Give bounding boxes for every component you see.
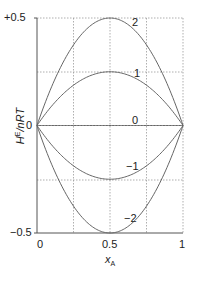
y-tick-label-bottom: −0.5 (10, 227, 32, 238)
curves (37, 18, 183, 233)
y-axis-label-sup: E (14, 132, 21, 137)
y-axis-label-main: H (14, 136, 26, 144)
curve-label-minus-2: −2 (124, 213, 137, 224)
curve-label-1: 1 (134, 68, 140, 79)
x-axis-label: xA (105, 253, 115, 267)
curve-label-minus-1: −1 (126, 161, 139, 172)
x-axis-label-sub: A (111, 260, 116, 267)
y-axis-label: HE/nRT (14, 108, 27, 144)
x-tick-label-0.5: 0.5 (102, 239, 117, 250)
y-axis-label-rest: /nRT (14, 108, 26, 132)
x-tick-label-0: 0 (37, 239, 43, 250)
x-tick-label-1: 1 (179, 239, 185, 250)
curve-label-0: 0 (132, 115, 138, 126)
curve-label-2: 2 (132, 17, 138, 28)
y-tick-label-top: +0.5 (4, 12, 26, 23)
chart-canvas (0, 0, 197, 281)
y-tick-label-zero: 0 (26, 120, 32, 131)
